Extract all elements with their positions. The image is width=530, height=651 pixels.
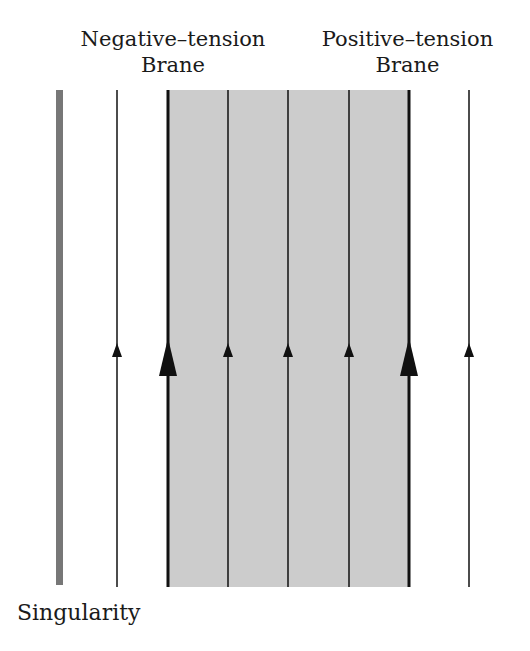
singularity-label: Singularity xyxy=(17,600,141,626)
arrow-up-icon xyxy=(112,343,122,357)
positive-brane-label-line1: Positive–tension xyxy=(305,26,510,52)
negative-brane-label: Negative–tension Brane xyxy=(78,26,268,78)
positive-brane-label-line2: Brane xyxy=(305,52,510,78)
positive-brane-label: Positive–tension Brane xyxy=(305,26,510,78)
negative-brane-label-line2: Brane xyxy=(78,52,268,78)
singularity-bar xyxy=(56,90,63,585)
arrow-up-icon xyxy=(464,343,474,357)
negative-brane-label-line1: Negative–tension xyxy=(78,26,268,52)
brane-diagram xyxy=(0,0,530,651)
